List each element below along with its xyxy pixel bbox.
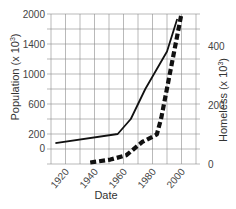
x-axis-ticks: 19201940196019802000 [48,166,187,190]
x-tick-label: 1940 [77,166,100,190]
x-tick-label: 1960 [106,166,129,190]
y-tick-label-left: 1000 [23,69,46,80]
series-line-homeless [90,14,181,163]
y-tick-label-right: 400 [208,41,225,52]
y-axis-title-right: Homeless (x 103) [217,58,229,142]
y-tick-label-left: 600 [28,99,45,110]
y-axis-title-left: Population (x 103) [9,33,21,120]
x-tick-label: 2000 [164,166,187,190]
y-tick-label-left: 0 [39,143,45,154]
y-tick-label-right: 0 [208,159,214,170]
x-tick-label: 1980 [135,166,158,190]
y-tick-label-left: 2000 [23,9,46,20]
series-lines [55,14,181,163]
x-tick-label: 1920 [48,166,71,190]
y-tick-label-left: 1400 [23,39,46,50]
dual-axis-line-chart: 2000140010006002000 4002000 192019401960… [0,0,236,209]
y-tick-label-left: 200 [28,129,45,140]
left-axis-ticks: 2000140010006002000 [23,9,46,154]
x-axis-title: Date [94,189,117,201]
